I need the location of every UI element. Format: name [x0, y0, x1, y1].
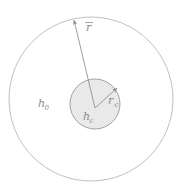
label-r-c: r [108, 94, 114, 107]
diagram-svg: r r c h c h 0 [0, 0, 186, 195]
label-r-c-subscript: c [115, 101, 119, 109]
label-h-c-subscript: c [90, 117, 94, 125]
figure-canvas: r r c h c h 0 [0, 0, 186, 195]
label-r-bar: r [86, 21, 92, 34]
label-h-0-subscript: 0 [45, 104, 50, 112]
